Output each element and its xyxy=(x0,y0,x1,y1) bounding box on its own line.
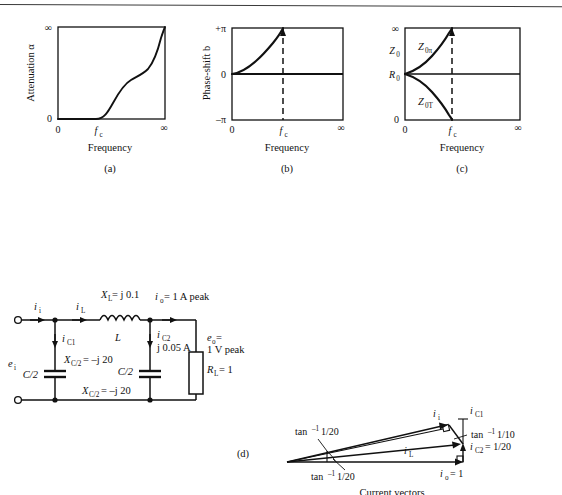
label-output-voltage-eq: = xyxy=(216,332,222,343)
label-output-current-value: = 1 A peak xyxy=(164,291,210,302)
panel-c-xtick-zero: 0 xyxy=(403,124,408,135)
label-input-current: i i xyxy=(34,301,41,315)
label-ic1-sub: C1 xyxy=(67,339,76,347)
panel-c-label-z0pi-base: Z xyxy=(418,41,424,52)
panel-a-xlabel: Frequency xyxy=(88,142,133,153)
label-inductor-current-base: i xyxy=(76,301,79,312)
panel-b-xtick-fc-sub: c xyxy=(284,131,287,139)
angle-label-current-upper: tan –1 1/20 xyxy=(295,425,339,437)
panel-c-xtick-fc: f c xyxy=(449,125,457,139)
label-current-ic2-value: = 1/20 xyxy=(485,441,511,452)
label-cap2-reactance-base: X xyxy=(81,385,89,396)
panel-a-xtick-fc-sub: c xyxy=(99,131,102,139)
panel-c-label-z0pi-sub: 0π xyxy=(425,47,433,55)
panel-b-ylabel: Phase-shift b xyxy=(201,46,212,101)
panel-b-xtick-zero: 0 xyxy=(230,124,235,135)
label-current-ic1-base: i xyxy=(470,405,473,416)
panel-b: +π 0 –π 0 f c ∞ Phase-shift b Frequency … xyxy=(201,23,345,175)
label-cap2-reactance-sub: C/2 xyxy=(89,391,100,399)
label-cap2-reactance-value: = –j 20 xyxy=(101,385,131,396)
current-vector-diagram: i i i C1 i L i C2 = 1/20 i o = 1 xyxy=(287,405,515,495)
label-cap1-reactance-value: = –j 20 xyxy=(83,354,113,365)
angle-label-current-right-value: 1/10 xyxy=(497,429,515,440)
angle-label-current-lower-sup: –1 xyxy=(327,470,336,478)
panel-a-curve xyxy=(58,27,165,119)
panel-a-xtick-zero: 0 xyxy=(56,124,61,135)
current-arrow-il xyxy=(72,317,87,323)
panel-b-xtick-fc-base: f xyxy=(280,125,284,136)
panel-c-ytick-inf: ∞ xyxy=(392,23,399,34)
panel-d-caption: (d) xyxy=(237,448,250,460)
label-ic2: i C2 j 0.05 A xyxy=(156,329,191,353)
angle-label-current-upper-text: tan xyxy=(295,426,307,437)
label-input-current-base: i xyxy=(34,301,37,312)
panel-c-ytick-z0-base: Z xyxy=(389,45,395,56)
panel-c-z0t-curve xyxy=(405,74,452,120)
label-current-io-sub: o xyxy=(445,474,449,482)
label-current-il-base: i xyxy=(404,445,407,456)
label-source-voltage-base: e xyxy=(8,358,13,369)
panel-c-ytick-zero: 0 xyxy=(394,114,399,125)
label-current-ic1: i C1 xyxy=(470,405,484,419)
panel-b-ytick-zero: 0 xyxy=(221,69,226,80)
label-cap1-reactance-sub: C/2 xyxy=(71,360,82,368)
panel-c-label-z0t-base: Z xyxy=(418,96,424,107)
label-current-io-base: i xyxy=(440,468,443,479)
label-current-ii: i i xyxy=(433,408,440,422)
label-output-voltage-value: 1 V peak xyxy=(207,344,245,355)
panel-c-xtick-fc-base: f xyxy=(449,125,453,136)
label-output-current-base: i xyxy=(155,291,158,302)
label-ic2-base: i xyxy=(157,329,160,340)
current-vector-il-line xyxy=(287,445,455,462)
angle-label-current-right-sup: –1 xyxy=(487,428,496,436)
label-current-ii-base: i xyxy=(433,408,436,419)
label-current-io: i o = 1 xyxy=(440,468,463,482)
label-ic2-value: j 0.05 A xyxy=(156,342,191,353)
angle-label-current-right-text: tan xyxy=(471,429,483,440)
panel-b-xtick-fc: f c xyxy=(280,125,288,139)
right-angle-mark-ii xyxy=(442,424,449,431)
label-current-ic2-base: i xyxy=(470,441,473,452)
panel-a-xtick-inf: ∞ xyxy=(160,122,167,133)
angle-label-current-lower: tan –1 1/20 xyxy=(311,470,355,482)
panel-c-ytick-z0-sub: 0 xyxy=(396,51,400,59)
panel-c-label-z0t-sub: 0T xyxy=(425,102,434,110)
panel-c: ∞ Z 0 R 0 0 Z 0π Z 0T 0 f c xyxy=(388,23,522,175)
label-current-il: i L xyxy=(404,445,413,459)
current-vector-ic1-line xyxy=(449,425,463,444)
label-output-current: i o = 1 A peak xyxy=(155,291,210,305)
angle-label-current-lower-text: tan xyxy=(311,471,323,482)
label-current-ic2-sub: C2 xyxy=(475,447,484,455)
panel-c-label-z0pi: Z 0π xyxy=(418,41,433,55)
label-cap1-reactance: X C/2 = –j 20 xyxy=(63,354,113,368)
current-arrow-ii xyxy=(30,317,45,323)
label-load: R L = 1 xyxy=(206,364,233,378)
label-cap2-reactance: X C/2 = –j 20 xyxy=(81,385,131,399)
panel-c-xlabel: Frequency xyxy=(440,142,485,153)
node-cap2-top xyxy=(147,317,152,322)
current-arrow-io xyxy=(162,317,177,323)
panel-b-curve xyxy=(232,28,283,74)
label-load-sub: L xyxy=(214,370,218,378)
label-ic1: i C1 xyxy=(62,333,76,347)
panel-c-ytick-r0-base: R xyxy=(388,69,395,80)
current-vector-ic2-arrow xyxy=(460,443,466,451)
top-plots-group: ∞ 0 0 f c ∞ Attenuation α Frequency (a) xyxy=(0,0,562,178)
leader-upper-angle xyxy=(318,439,327,451)
label-current-ic2: i C2 = 1/20 xyxy=(470,441,511,455)
panel-c-caption: (c) xyxy=(456,163,468,175)
label-output-voltage: e o = 1 V peak xyxy=(207,332,245,355)
node-cap1-bottom xyxy=(52,397,57,402)
current-vectors-title: Current vectors xyxy=(359,487,424,495)
inductor-coil xyxy=(100,316,140,321)
angle-label-current-upper-sup: –1 xyxy=(311,425,320,433)
circuit-schematic: i i i L X L = j 0.1 L i o = 1 A peak i C… xyxy=(8,289,245,403)
label-inductor-current-sub: L xyxy=(81,307,85,315)
panel-a-ylabel: Attenuation α xyxy=(25,44,36,102)
current-arrow-ic1 xyxy=(52,334,58,348)
node-cap1-top xyxy=(52,317,57,322)
label-inductor-name: L xyxy=(114,332,121,343)
current-vector-il-arrow xyxy=(452,442,461,449)
panel-b-ytick-plus-pi: +π xyxy=(215,23,226,34)
input-terminal-top xyxy=(15,317,22,324)
